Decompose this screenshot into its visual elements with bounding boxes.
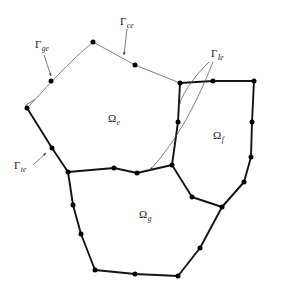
node-omega-e-apex xyxy=(91,40,96,45)
node-omega-g-right-lower xyxy=(198,246,203,251)
label-gamma-ge: Γge xyxy=(35,38,50,53)
leader-gamma-ge xyxy=(44,55,51,76)
omega-e-symbol: Ω xyxy=(108,112,116,124)
fem-subdomain-diagram: ΩeΩfΩgΓgeΓceΓIeΓte xyxy=(0,0,292,294)
leader-gamma-ce xyxy=(124,29,127,55)
gamma-Ie-symbol: Γ xyxy=(211,47,217,59)
node-omega-g-left-mid xyxy=(71,203,76,208)
gamma-ge-subscript: ge xyxy=(42,44,50,53)
node-interface-fg-mid xyxy=(190,195,195,200)
node-omega-e-top-left-corner xyxy=(25,106,30,111)
gamma-Ie-subscript: Ie xyxy=(217,53,224,62)
node-omega-g-bottom-mid xyxy=(133,272,138,277)
gamma-ce-symbol: Γ xyxy=(120,15,126,27)
node-omega-f-top-right xyxy=(252,79,257,84)
label-gamma-Ie: ΓIe xyxy=(211,47,224,62)
label-gamma-ce: Γce xyxy=(120,15,134,30)
node-triple-junction-eg xyxy=(66,170,71,175)
node-omega-f-top-mid xyxy=(211,79,216,84)
gamma-ge-symbol: Γ xyxy=(35,38,41,50)
node-interface-eg-mid-left xyxy=(112,166,117,171)
diagram-canvas: ΩeΩfΩgΓgeΓceΓIeΓte xyxy=(0,0,292,294)
omega-g-symbol: Ω xyxy=(139,208,147,220)
omega-f-symbol: Ω xyxy=(213,129,221,141)
node-gamma-te-mid xyxy=(50,146,55,151)
node-omega-g-bottom-right xyxy=(176,274,181,279)
subdomain-omega-e xyxy=(27,42,180,173)
node-omega-f-right-lower xyxy=(249,155,254,160)
node-omega-g-bottom-left xyxy=(93,268,98,273)
thin-boundary-edges xyxy=(27,42,254,276)
node-gamma-ce-mid xyxy=(133,63,138,68)
node-omega-g-bottom-left-upper xyxy=(79,232,84,237)
node-triple-junction-efg xyxy=(170,163,175,168)
node-triple-junction-ef xyxy=(178,81,183,86)
node-gamma-ge-mid xyxy=(49,79,54,84)
leader-gamma-te xyxy=(33,153,46,165)
node-interface-eg-mid-right xyxy=(135,171,140,176)
gamma-ce-subscript: ce xyxy=(127,21,134,30)
label-gamma-te: Γte xyxy=(14,159,27,174)
gamma-te-subscript: te xyxy=(21,165,27,174)
gamma-te-symbol: Γ xyxy=(14,159,20,171)
node-interface-ef-mid xyxy=(176,120,181,125)
node-omega-f-right-mid xyxy=(250,120,255,125)
node-junction-fg xyxy=(220,205,225,210)
omega-g-subscript: g xyxy=(148,214,152,223)
node-omega-f-bottom-right xyxy=(242,180,247,185)
